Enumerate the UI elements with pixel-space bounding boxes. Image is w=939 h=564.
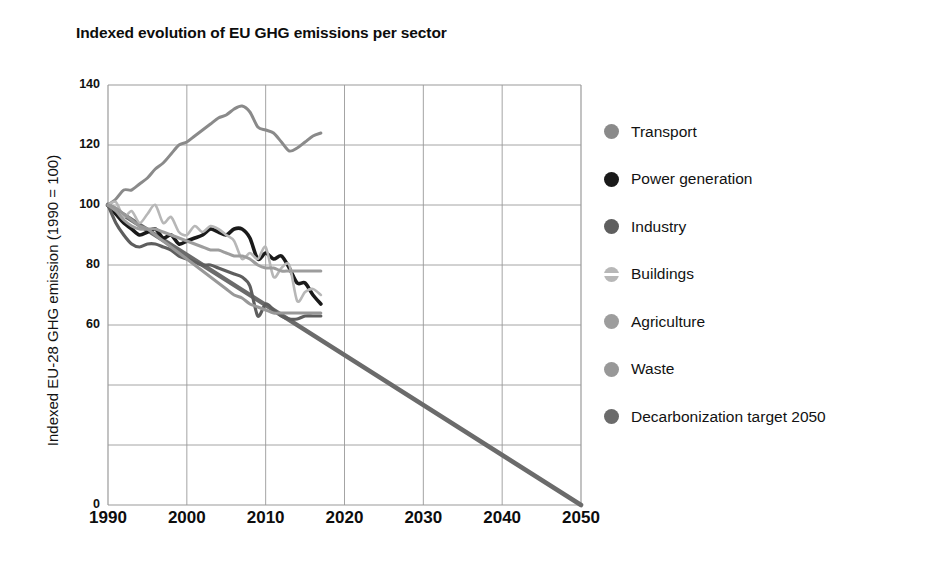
x-tick-label: 2040 <box>467 508 537 528</box>
x-tick-label: 1990 <box>73 508 143 528</box>
chart-legend: TransportPower generationIndustryBuildin… <box>604 108 934 441</box>
legend-marker-icon <box>604 124 619 139</box>
y-tick-label: 140 <box>60 77 100 91</box>
legend-marker-icon <box>604 267 619 282</box>
legend-item-transport[interactable]: Transport <box>604 108 934 156</box>
chart-figure: Indexed evolution of EU GHG emissions pe… <box>0 0 939 564</box>
legend-item-label: Buildings <box>631 265 694 283</box>
legend-marker-icon <box>604 172 619 187</box>
legend-item-label: Decarbonization target 2050 <box>631 408 826 426</box>
legend-item-buildings[interactable]: Buildings <box>604 251 934 299</box>
legend-item-label: Transport <box>631 123 697 141</box>
legend-item-label: Waste <box>631 360 674 378</box>
y-tick-label: 60 <box>60 317 100 331</box>
legend-item-power-generation[interactable]: Power generation <box>604 156 934 204</box>
x-tick-label: 2000 <box>152 508 222 528</box>
legend-marker-icon <box>604 314 619 329</box>
series-transport <box>108 106 321 205</box>
legend-item-label: Agriculture <box>631 313 705 331</box>
x-tick-label: 2030 <box>388 508 458 528</box>
y-tick-label: 100 <box>60 197 100 211</box>
legend-item-label: Industry <box>631 218 686 236</box>
series-power-generation <box>108 205 321 304</box>
legend-item-industry[interactable]: Industry <box>604 203 934 251</box>
legend-item-label: Power generation <box>631 170 753 188</box>
x-tick-label: 2010 <box>231 508 301 528</box>
series-buildings <box>108 202 321 302</box>
legend-item-decarbonization-target-2050[interactable]: Decarbonization target 2050 <box>604 393 934 441</box>
legend-marker-icon <box>604 219 619 234</box>
y-tick-label: 80 <box>60 257 100 271</box>
legend-item-agriculture[interactable]: Agriculture <box>604 298 934 346</box>
series-agriculture <box>108 205 321 271</box>
series-waste <box>108 205 321 313</box>
legend-item-waste[interactable]: Waste <box>604 346 934 394</box>
x-tick-label: 2050 <box>546 508 616 528</box>
grid-lines <box>108 85 581 505</box>
legend-marker-icon <box>604 362 619 377</box>
y-tick-label: 120 <box>60 137 100 151</box>
x-tick-label: 2020 <box>310 508 380 528</box>
legend-marker-icon <box>604 409 619 424</box>
